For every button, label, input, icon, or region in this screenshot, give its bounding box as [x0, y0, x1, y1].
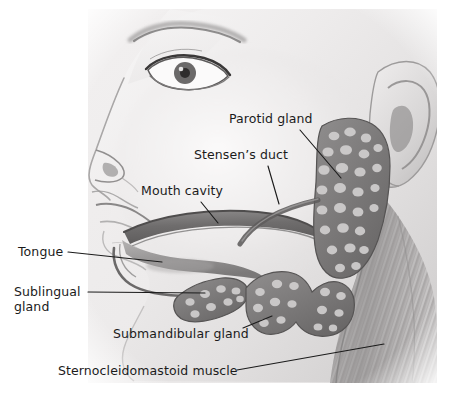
label-sternocleidomastoid-muscle: Sternocleidomastoid muscle — [58, 364, 238, 379]
label-tongue: Tongue — [18, 245, 63, 260]
illustration-canvas: Parotid glandStensen’s ductMouth cavityT… — [0, 0, 454, 396]
label-stensens-duct: Stensen’s duct — [194, 148, 288, 163]
label-mouth-cavity: Mouth cavity — [141, 184, 223, 199]
label-submandibular-gland: Submandibular gland — [113, 327, 249, 342]
label-sublingual-gland: Sublingual gland — [14, 285, 81, 314]
label-parotid-gland: Parotid gland — [229, 112, 313, 127]
